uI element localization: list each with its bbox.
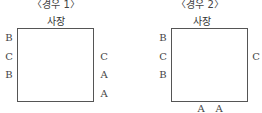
case-2-left-seat-1: B <box>159 33 166 43</box>
case-2-left-seat-3: B <box>159 70 166 80</box>
case-1-left-seat-3: B <box>5 70 12 80</box>
case-1-table <box>17 28 94 102</box>
case-1-left-seat-1: B <box>5 33 12 43</box>
case-2-right-seat-1: C <box>252 52 260 62</box>
case-1-right-seat-2: A <box>100 70 107 80</box>
case-1-left-seat-2: C <box>5 52 13 62</box>
case-1-head-seat: 사장 <box>47 17 65 27</box>
case-2-head-seat: 사장 <box>193 17 211 27</box>
case-2-bottom-seat-2: A <box>215 104 222 113</box>
case-1-right-seat-1: C <box>100 52 108 62</box>
case-2-table <box>171 28 248 102</box>
case-1-title: 〈경우 1〉 <box>32 0 80 10</box>
case-1-right-seat-3: A <box>100 89 107 99</box>
case-2-bottom-seat-1: A <box>197 104 204 113</box>
case-2-left-seat-2: C <box>159 52 167 62</box>
case-2-title: 〈경우 2〉 <box>176 0 224 10</box>
